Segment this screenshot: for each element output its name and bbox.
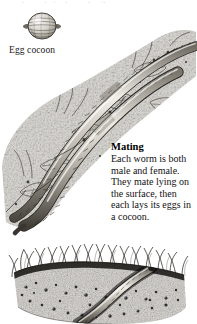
page-canvas: beneath, in the cool soil — [0, 0, 197, 324]
mating-text-block: Mating Each worm is both male and female… — [111, 141, 195, 223]
clipped-headline: beneath, in the cool soil — [22, 0, 162, 3]
mating-heading: Mating — [111, 141, 195, 153]
soil-section-illustration — [0, 243, 197, 324]
mating-body-text: Each worm is both male and female. They … — [111, 153, 195, 223]
